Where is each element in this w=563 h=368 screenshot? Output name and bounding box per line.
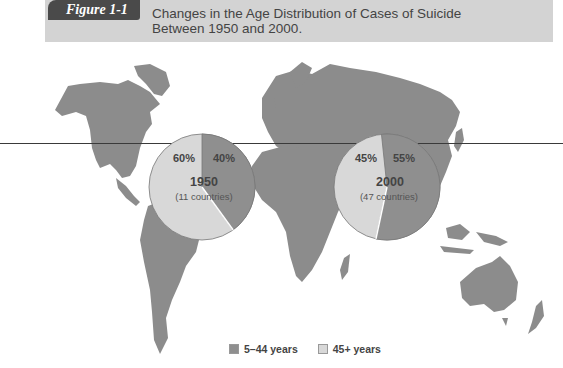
legend-label-45-plus: 45+ years — [333, 343, 381, 355]
legend-swatch-5-44 — [229, 344, 239, 354]
japan — [454, 128, 464, 152]
pie-2000-countries: (47 countries) — [344, 191, 434, 202]
figure-title-line-2: Between 1950 and 2000. — [152, 21, 552, 36]
pie-2000-young-pct: 55% — [393, 152, 415, 164]
figure-title-line-1: Changes in the Age Distribution of Cases… — [152, 6, 552, 21]
legend-label-5-44: 5–44 years — [244, 343, 298, 355]
pie-1950-countries: (11 countries) — [159, 191, 249, 202]
new-zealand — [528, 300, 544, 334]
southeast-asia-islands — [440, 224, 508, 254]
legend-swatch-45-plus — [318, 344, 328, 354]
pie-2000-old-pct: 45% — [355, 152, 377, 164]
north-america — [55, 80, 160, 178]
world-map — [0, 44, 563, 368]
figure-label: Figure 1-1 — [48, 0, 140, 20]
pie-1950-year: 1950 — [164, 175, 244, 189]
pie-2000-year: 2000 — [350, 175, 430, 189]
legend-item-5-44: 5–44 years — [229, 343, 298, 355]
madagascar — [340, 254, 350, 280]
tasmania — [502, 318, 508, 326]
reference-line — [0, 143, 563, 144]
central-america — [116, 178, 140, 206]
pie-1950-old-pct: 60% — [173, 152, 195, 164]
legend: 5–44 years 45+ years — [229, 343, 395, 355]
legend-item-45-plus: 45+ years — [318, 343, 381, 355]
pie-1950-young-pct: 40% — [213, 152, 235, 164]
figure-title: Changes in the Age Distribution of Cases… — [152, 6, 552, 36]
australia — [460, 256, 518, 312]
